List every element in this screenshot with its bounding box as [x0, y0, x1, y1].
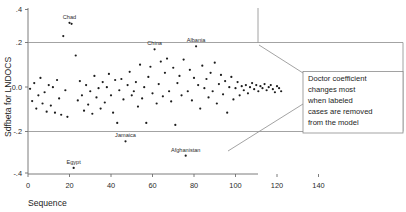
data-point [68, 22, 70, 24]
leader-line-albania [259, 45, 303, 73]
data-point [280, 90, 282, 92]
callout-line: cases are removed [308, 107, 373, 116]
point-label-chad: Chad [63, 14, 76, 20]
data-point [172, 67, 174, 69]
data-point [60, 114, 62, 116]
data-point [251, 82, 253, 84]
scatter-plot: .4 .2 0.0 -.2 -.4 0 20 40 60 80 100 120 … [0, 0, 406, 212]
data-point [62, 35, 64, 37]
data-point [259, 85, 261, 87]
data-point [210, 72, 212, 74]
point-label-egypt: Egypt [66, 159, 81, 165]
point-label-afghanistan: Afghanistan [171, 147, 201, 153]
point-label-jamaica: Jamaica [115, 132, 137, 138]
data-point [66, 116, 68, 118]
data-point [97, 87, 99, 89]
data-point [156, 102, 158, 104]
data-point [149, 66, 151, 68]
data-point [243, 89, 245, 91]
data-point [87, 103, 89, 105]
x-tick-label-3: 60 [148, 181, 156, 190]
data-point [263, 83, 265, 85]
data-point [108, 73, 110, 75]
data-point [89, 90, 91, 92]
callout-line: Doctor coefficient [308, 74, 367, 83]
x-tick-label-4: 80 [190, 181, 198, 190]
data-point [253, 88, 255, 90]
data-point [220, 74, 222, 76]
data-point [255, 84, 257, 86]
data-point [100, 108, 102, 110]
data-point [203, 87, 205, 89]
data-point [46, 111, 48, 113]
data-point [239, 94, 241, 96]
point-label-china: China [147, 40, 163, 46]
data-point [85, 84, 87, 86]
callout-line: from the model [308, 118, 359, 127]
data-point [236, 81, 238, 83]
data-point [199, 108, 201, 110]
data-point [232, 98, 234, 100]
data-point [218, 83, 220, 85]
data-point [77, 99, 79, 101]
data-point [75, 54, 77, 56]
data-point [112, 112, 114, 114]
x-tick-label-1: 20 [65, 181, 73, 190]
point-labels: ChadChinaAlbaniaJamaicaAfghanistanEgypt [63, 14, 206, 165]
data-point [37, 94, 39, 96]
x-tick-label-2: 40 [107, 181, 115, 190]
data-point [226, 112, 228, 114]
data-point [29, 88, 31, 90]
data-point [81, 94, 83, 96]
data-point [162, 95, 164, 97]
data-point [278, 87, 280, 89]
data-point [54, 112, 56, 114]
x-tick-label-5: 100 [229, 181, 241, 190]
data-point [272, 88, 274, 90]
data-point [158, 83, 160, 85]
data-point [247, 92, 249, 94]
chart-container: .4 .2 0.0 -.2 -.4 0 20 40 60 80 100 120 … [0, 0, 406, 212]
data-point [120, 78, 122, 80]
data-point [174, 124, 176, 126]
data-point [224, 80, 226, 82]
x-tick-label-0: 0 [26, 181, 30, 190]
data-point [234, 87, 236, 89]
data-point [122, 98, 124, 100]
data-point [129, 71, 131, 73]
data-point [137, 105, 139, 107]
data-point [241, 85, 243, 87]
data-point [178, 75, 180, 77]
data-point [160, 61, 162, 63]
data-point [197, 84, 199, 86]
y-axis-title: Sdfbeta for LNDOCS [3, 56, 13, 137]
data-point [168, 90, 170, 92]
data-point [274, 91, 276, 93]
data-point [276, 85, 278, 87]
y-axis-ticks: .4 .2 0.0 -.2 -.4 [12, 5, 28, 178]
data-point [131, 94, 133, 96]
data-point [249, 86, 251, 88]
data-point [64, 89, 66, 91]
callout-leader-lines [228, 45, 303, 151]
y-tick-label-3: -.2 [13, 127, 22, 136]
data-point [207, 96, 209, 98]
y-tick-label-4: -.4 [13, 169, 22, 178]
data-point [205, 78, 207, 80]
data-point [114, 79, 116, 81]
data-point [222, 93, 224, 95]
data-point [183, 58, 185, 60]
data-point [257, 90, 259, 92]
x-tick-label-7: 140 [312, 181, 324, 190]
data-point [83, 110, 85, 112]
data-point [141, 97, 143, 99]
data-point [266, 89, 268, 91]
data-point [70, 23, 72, 25]
y-tick-label-0: .4 [16, 5, 22, 14]
data-point [212, 90, 214, 92]
data-point [180, 94, 182, 96]
data-point [193, 77, 195, 79]
data-point [93, 75, 95, 77]
data-point [33, 82, 35, 84]
data-point [106, 86, 108, 88]
